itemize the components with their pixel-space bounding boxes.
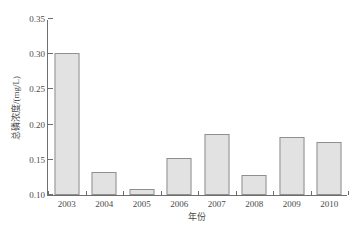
bar-2008	[242, 175, 267, 195]
bar-2005	[129, 189, 154, 195]
y-tick-label: 0.20	[29, 120, 45, 129]
x-axis-title: 年份	[47, 212, 347, 223]
bar-series: 20032004200520062007200820092010	[48, 20, 347, 195]
bar-2007	[204, 134, 229, 195]
chart-figure: 总磷浓度/(mg/L) 0.100.150.200.250.300.35 200…	[0, 0, 356, 241]
x-tick-label-2008: 2008	[245, 199, 263, 209]
bar-slot: 2003	[48, 20, 86, 195]
x-tick-label-2005: 2005	[133, 199, 151, 209]
y-tick-label: 0.25	[29, 85, 45, 94]
bar-2010	[317, 142, 342, 195]
x-tick-label-2007: 2007	[208, 199, 226, 209]
x-tick-label-2009: 2009	[283, 199, 301, 209]
bar-slot: 2007	[198, 20, 236, 195]
bar-slot: 2009	[273, 20, 311, 195]
y-tick-label: 0.35	[29, 15, 45, 24]
bar-2004	[92, 172, 117, 195]
x-tick-label-2010: 2010	[320, 199, 338, 209]
bar-2006	[167, 158, 192, 195]
x-tick-label-2003: 2003	[58, 199, 76, 209]
y-tick-label: 0.30	[29, 50, 45, 59]
y-tick-label: 0.10	[29, 191, 45, 200]
plot-area: 0.100.150.200.250.300.35 200320042005200…	[47, 20, 347, 196]
bar-slot: 2006	[161, 20, 199, 195]
bar-slot: 2005	[123, 20, 161, 195]
bar-slot: 2004	[86, 20, 124, 195]
y-tick-0.35: 0.35	[48, 18, 53, 19]
bar-2009	[279, 137, 304, 195]
y-axis-title: 总磷浓度/(mg/L)	[9, 20, 23, 196]
x-tick-label-2006: 2006	[170, 199, 188, 209]
bar-2003	[54, 53, 79, 195]
bar-slot: 2008	[236, 20, 274, 195]
x-tick	[348, 191, 349, 195]
bar-slot: 2010	[311, 20, 349, 195]
y-tick-label: 0.15	[29, 155, 45, 164]
x-tick-label-2004: 2004	[95, 199, 113, 209]
